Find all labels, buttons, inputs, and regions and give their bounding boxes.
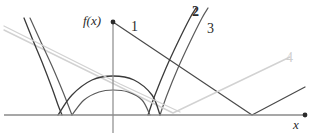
x-axis-label: x <box>293 118 299 131</box>
curve-label-3: 3 <box>207 22 214 36</box>
x-axis-end-dot-icon <box>303 113 308 118</box>
figure-graph: f(x) x 1 2 3 4 <box>0 0 312 140</box>
curve-left-parabola-inner <box>30 18 72 115</box>
curve-label-2: 2 <box>192 5 199 19</box>
curve-left-parabola-outer <box>24 18 62 115</box>
curve-4 <box>4 30 290 113</box>
y-axis-top-dot-icon <box>111 20 116 25</box>
curve-light-diagonal <box>4 26 180 112</box>
y-axis-label: f(x) <box>83 14 101 27</box>
curve-label-1: 1 <box>131 20 138 34</box>
curve-dome-inner <box>72 90 150 115</box>
curve-label-4: 4 <box>286 51 293 65</box>
plot-canvas <box>0 0 312 140</box>
